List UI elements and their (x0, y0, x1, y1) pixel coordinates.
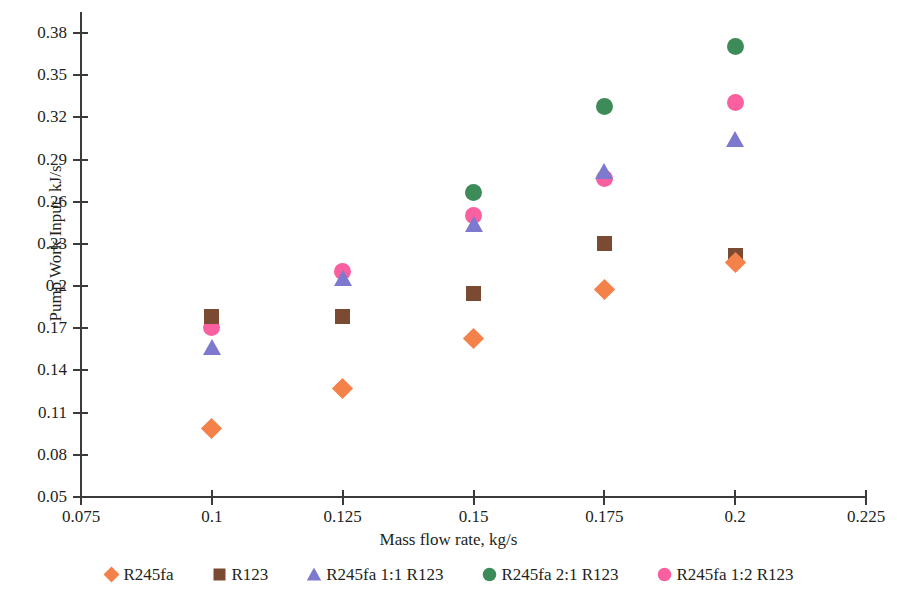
legend-label: R123 (231, 566, 268, 583)
legend-swatch (481, 566, 497, 582)
square-marker (213, 568, 225, 580)
x-tick-label: 0.1 (167, 508, 257, 525)
legend-label: R245fa 1:2 R123 (677, 566, 794, 583)
data-point (465, 184, 482, 201)
data-point (335, 309, 350, 324)
legend-swatch (211, 566, 227, 582)
circle-marker (483, 567, 497, 581)
x-tick-label: 0.075 (36, 508, 126, 525)
data-point (204, 309, 219, 324)
x-tick-label: 0.2 (690, 508, 780, 525)
legend-item-4[interactable]: R245fa 1:2 R123 (657, 566, 794, 583)
data-point (726, 131, 744, 147)
legend-label: R245fa (123, 566, 173, 583)
data-point (466, 286, 481, 301)
diamond-marker (103, 566, 119, 582)
y-tick-label: 0.2 (5, 277, 67, 294)
y-tick-label: 0.05 (5, 488, 67, 505)
x-tick-label: 0.175 (559, 508, 649, 525)
legend-item-1[interactable]: R123 (211, 566, 268, 583)
data-point (203, 339, 221, 355)
x-axis-title: Mass flow rate, kg/s (0, 531, 897, 548)
x-tick-label: 0.125 (298, 508, 388, 525)
legend-label: R245fa 1:1 R123 (326, 566, 443, 583)
data-point (727, 38, 744, 55)
legend-item-2[interactable]: R245fa 1:1 R123 (306, 566, 443, 583)
y-tick-label: 0.26 (5, 193, 67, 210)
y-tick-label: 0.35 (5, 66, 67, 83)
y-tick-label: 0.38 (5, 24, 67, 41)
y-tick-label: 0.08 (5, 446, 67, 463)
data-point (597, 236, 612, 251)
data-point (465, 216, 483, 232)
legend-swatch (306, 566, 322, 582)
y-tick-label: 0.14 (5, 361, 67, 378)
chart-legend: R245faR123R245fa 1:1 R123R245fa 2:1 R123… (0, 560, 897, 588)
legend-item-0[interactable]: R245fa (103, 566, 173, 583)
x-tick-label: 0.15 (429, 508, 519, 525)
legend-item-3[interactable]: R245fa 2:1 R123 (481, 566, 618, 583)
triangle-marker (307, 568, 321, 581)
legend-swatch (657, 566, 673, 582)
y-tick-label: 0.29 (5, 151, 67, 168)
y-tick-label: 0.11 (5, 404, 67, 421)
circle-marker (658, 567, 672, 581)
data-point (727, 94, 744, 111)
y-tick-label: 0.17 (5, 319, 67, 336)
legend-label: R245fa 2:1 R123 (501, 566, 618, 583)
legend-swatch (103, 566, 119, 582)
scatter-chart: Pump Work Input, kJ/s Mass flow rate, kg… (0, 0, 897, 590)
data-point (334, 270, 352, 286)
y-tick-label: 0.32 (5, 108, 67, 125)
y-tick-label: 0.23 (5, 235, 67, 252)
x-tick-label: 0.225 (821, 508, 897, 525)
data-point (595, 163, 613, 179)
plot-area (81, 33, 866, 497)
